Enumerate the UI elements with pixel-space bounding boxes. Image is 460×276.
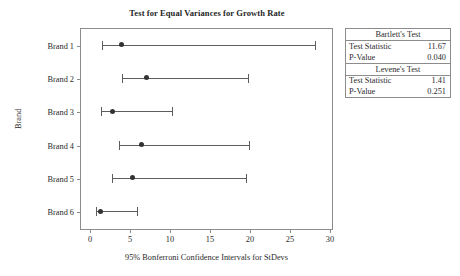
- y-axis-title: Brand: [14, 109, 23, 129]
- test-heading: Levene's Test: [346, 64, 450, 76]
- interval-center-marker: [130, 175, 135, 180]
- test-stat-row: Test Statistic11.67: [346, 41, 450, 52]
- test-stat-label: P-Value: [349, 87, 375, 96]
- interval-upper-cap: [315, 41, 316, 50]
- chart-title: Test for Equal Variances for Growth Rate: [80, 8, 334, 18]
- interval-center-marker: [144, 75, 149, 80]
- interval-line: [102, 45, 315, 46]
- interval-upper-cap: [248, 74, 249, 83]
- test-heading: Bartlett's Test: [346, 29, 450, 41]
- test-stat-label: P-Value: [349, 53, 375, 62]
- confidence-interval-row: [81, 172, 332, 186]
- x-axis-tick-label: 20: [246, 235, 254, 244]
- x-axis-tick: [330, 229, 331, 233]
- confidence-interval-row: [81, 72, 332, 86]
- test-stat-label: Test Statistic: [349, 42, 392, 51]
- x-axis-tick-label: 0: [88, 235, 92, 244]
- x-axis-tick-label: 25: [286, 235, 294, 244]
- interval-lower-cap: [101, 107, 102, 116]
- test-section: Bartlett's TestTest Statistic11.67P-Valu…: [346, 29, 450, 63]
- y-axis-tick-label: Brand 3: [48, 108, 75, 117]
- x-axis-tick-label: 30: [326, 235, 334, 244]
- test-stat-value: 1.41: [425, 76, 446, 85]
- x-axis-tick: [250, 229, 251, 233]
- interval-center-marker: [98, 209, 103, 214]
- test-stat-value: 0.251: [421, 87, 446, 96]
- x-axis-tick-label: 10: [166, 235, 174, 244]
- test-stat-row: P-Value0.040: [346, 52, 450, 63]
- x-axis-tick: [170, 229, 171, 233]
- test-stat-row: P-Value0.251: [346, 87, 450, 98]
- confidence-interval-row: [81, 205, 332, 219]
- x-axis-tick: [90, 229, 91, 233]
- interval-center-marker: [110, 109, 115, 114]
- confidence-interval-row: [81, 139, 332, 153]
- interval-upper-cap: [172, 107, 173, 116]
- plot-inner: Brand 1Brand 2Brand 3Brand 4Brand 5Brand…: [81, 29, 332, 229]
- interval-center-marker: [119, 42, 124, 47]
- equal-variances-chart: Test for Equal Variances for Growth Rate…: [0, 0, 460, 276]
- x-axis-tick: [290, 229, 291, 233]
- interval-lower-cap: [96, 207, 97, 216]
- interval-upper-cap: [137, 207, 138, 216]
- interval-upper-cap: [249, 141, 250, 150]
- y-axis-tick-label: Brand 1: [48, 41, 75, 50]
- y-axis-tick-label: Brand 2: [48, 75, 75, 84]
- interval-lower-cap: [102, 41, 103, 50]
- x-axis-title: 95% Bonferroni Confidence Intervals for …: [80, 253, 333, 262]
- y-axis-tick-label: Brand 4: [48, 141, 75, 150]
- test-stat-label: Test Statistic: [349, 76, 392, 85]
- test-stat-value: 11.67: [422, 42, 446, 51]
- statistical-tests-box: Bartlett's TestTest Statistic11.67P-Valu…: [345, 28, 451, 98]
- interval-line: [122, 78, 248, 79]
- interval-lower-cap: [119, 141, 120, 150]
- interval-lower-cap: [122, 74, 123, 83]
- confidence-interval-row: [81, 105, 332, 119]
- x-axis-tick-label: 5: [128, 235, 132, 244]
- interval-lower-cap: [112, 174, 113, 183]
- test-stat-row: Test Statistic1.41: [346, 76, 450, 87]
- x-axis-tick-label: 15: [206, 235, 214, 244]
- interval-upper-cap: [246, 174, 247, 183]
- confidence-interval-row: [81, 39, 332, 53]
- y-axis-tick-label: Brand 6: [48, 208, 75, 217]
- test-stat-value: 0.040: [421, 53, 446, 62]
- y-axis-tick-label: Brand 5: [48, 175, 75, 184]
- plot-area: Brand 1Brand 2Brand 3Brand 4Brand 5Brand…: [80, 28, 333, 230]
- x-axis-tick: [130, 229, 131, 233]
- interval-center-marker: [139, 142, 144, 147]
- x-axis-tick: [210, 229, 211, 233]
- test-section: Levene's TestTest Statistic1.41P-Value0.…: [346, 63, 450, 98]
